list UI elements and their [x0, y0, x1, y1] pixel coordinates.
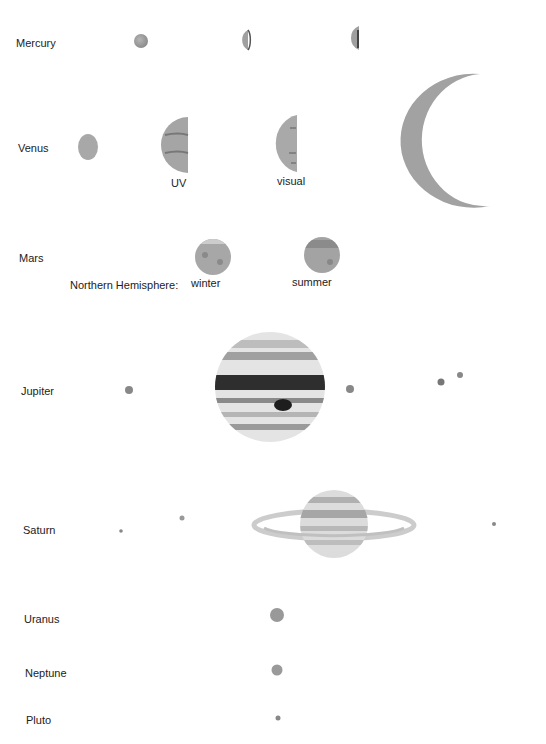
- neptune-disc: [272, 665, 283, 676]
- mercury-phases: [134, 26, 359, 50]
- label-pluto: Pluto: [26, 714, 51, 726]
- pluto-disc: [276, 716, 281, 721]
- uranus-disc: [270, 608, 284, 622]
- jupiter-system: [125, 332, 463, 442]
- saturn-system: [119, 490, 496, 558]
- label-mercury: Mercury: [16, 37, 56, 49]
- label-mars-summer: summer: [292, 276, 332, 288]
- label-mars-winter: winter: [191, 277, 220, 289]
- label-venus-visual: visual: [277, 175, 305, 187]
- label-jupiter: Jupiter: [21, 385, 54, 397]
- label-mars: Mars: [19, 252, 43, 264]
- label-saturn: Saturn: [23, 524, 55, 536]
- label-uranus: Uranus: [24, 613, 59, 625]
- venus-phases: [78, 74, 490, 208]
- mars-seasons: [195, 237, 340, 275]
- label-venus: Venus: [18, 142, 49, 154]
- label-neptune: Neptune: [25, 667, 67, 679]
- label-venus-uv: UV: [171, 177, 186, 189]
- label-northern-hemisphere: Northern Hemisphere:: [70, 279, 178, 291]
- planets-illustration: [0, 0, 546, 744]
